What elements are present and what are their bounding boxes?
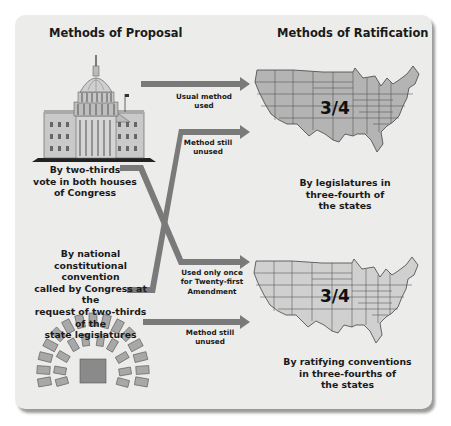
- arrow-convention-to-conventions: [143, 319, 241, 325]
- arrow-label-method-still-unused-1: Method stillunused: [174, 138, 242, 157]
- arrow-label-usual-method: Usual methodused: [168, 92, 240, 111]
- proposal-label-convention: By nationalconstitutional conventioncall…: [28, 248, 153, 341]
- arrow-label-method-still-unused-2: Method stillunused: [176, 328, 244, 347]
- arrow-usual-method: [141, 81, 241, 87]
- fraction-three-fourths-conventions: 3/4: [320, 286, 350, 306]
- fraction-three-fourths-legislatures: 3/4: [320, 98, 350, 118]
- proposal-label-congress: By two-thirdsvote in both housesof Congr…: [30, 164, 140, 199]
- ratification-label-conventions: By ratifying conventionsin three-fourths…: [280, 356, 415, 391]
- arrow-label-used-only-once: Used only oncefor Twenty-firstAmendment: [176, 268, 248, 296]
- ratification-label-legislatures: By legislatures inthree-fourth ofthe sta…: [290, 177, 400, 212]
